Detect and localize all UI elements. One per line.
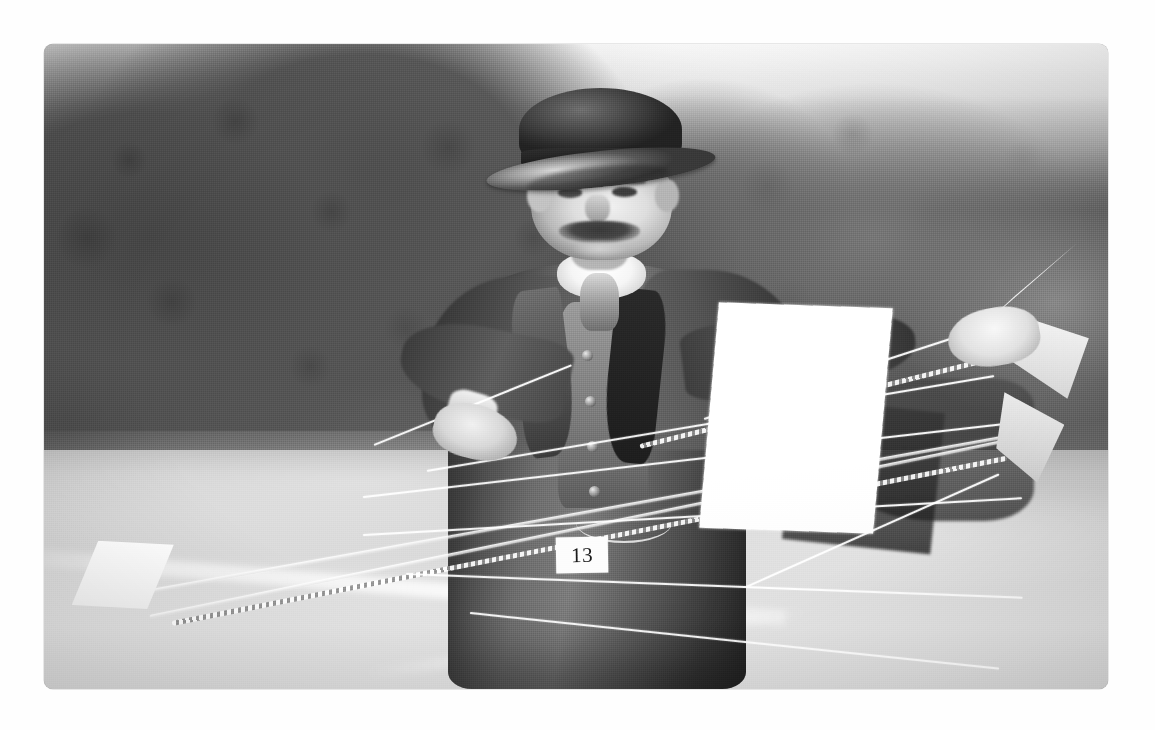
model-main-wing xyxy=(699,302,893,533)
chin xyxy=(572,239,627,258)
right-ear xyxy=(655,179,679,211)
necktie xyxy=(580,273,618,331)
photograph: 13 xyxy=(44,44,1108,689)
competition-number-text: 13 xyxy=(571,544,593,565)
nose xyxy=(585,195,611,223)
waistcoat-button xyxy=(585,396,596,407)
waistcoat-button xyxy=(589,486,600,497)
page-canvas: 13 xyxy=(0,0,1155,730)
competition-number-label: 13 xyxy=(555,536,608,573)
